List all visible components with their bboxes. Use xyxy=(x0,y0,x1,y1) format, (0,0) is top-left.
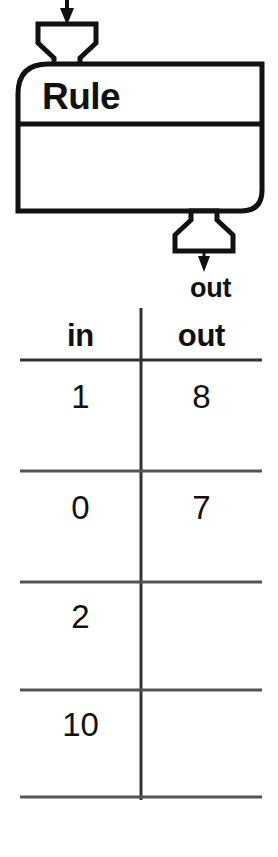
table-header-in: in xyxy=(20,320,141,351)
table-cell-in-3: 2 xyxy=(20,600,141,633)
input-hopper-shape xyxy=(38,24,96,67)
table-cell-in-2: 0 xyxy=(20,491,141,524)
table-cell-in-4: 10 xyxy=(20,708,141,741)
output-arrow-label: out xyxy=(190,275,231,302)
input-arrow-icon xyxy=(60,0,74,25)
worksheet-page: Rule out in out 1 8 0 7 2 10 xyxy=(0,0,278,857)
table-cell-in-1: 1 xyxy=(20,380,141,413)
table-cell-out-2[interactable]: 7 xyxy=(141,491,262,524)
table-cell-out-1[interactable]: 8 xyxy=(141,380,262,413)
function-machine-diagram: Rule out xyxy=(0,0,278,310)
output-arrow-icon xyxy=(198,251,210,272)
output-hopper-shape xyxy=(175,211,233,251)
function-machine-drawing xyxy=(0,0,278,310)
table-header-out: out xyxy=(141,320,262,351)
machine-rule-label: Rule xyxy=(42,78,120,115)
in-out-table: in out 1 8 0 7 2 10 xyxy=(0,300,278,857)
